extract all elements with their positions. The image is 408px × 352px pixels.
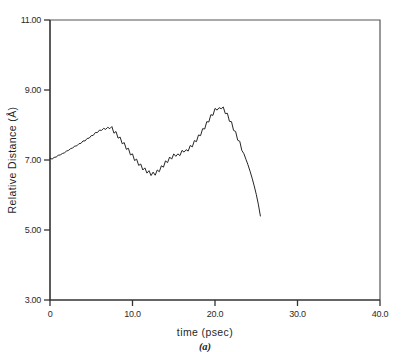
y-axis-title: Relative Distance (Å)	[6, 106, 18, 213]
x-tick-label-40: 40.0	[372, 309, 389, 319]
y-axis-ticks	[44, 20, 50, 300]
chart-canvas: 3.00 5.00 7.00 9.00 11.00 0 10.0 20.0 30…	[0, 0, 408, 352]
y-tick-label-5: 5.00	[25, 225, 42, 235]
figure-caption: (a)	[199, 341, 211, 352]
x-tick-label-10: 10.0	[124, 309, 141, 319]
plot-frame-top-right	[50, 20, 380, 300]
plot-axes	[50, 20, 380, 300]
x-axis-ticks	[50, 300, 380, 306]
x-tick-label-0: 0	[48, 309, 53, 319]
figure-container: 3.00 5.00 7.00 9.00 11.00 0 10.0 20.0 30…	[0, 0, 408, 352]
x-tick-label-30: 30.0	[289, 309, 306, 319]
y-tick-label-7: 7.00	[25, 155, 42, 165]
y-tick-label-9: 9.00	[25, 85, 42, 95]
data-curve-line	[50, 107, 260, 216]
y-tick-label-11: 11.00	[21, 15, 42, 25]
x-axis-title: time (psec)	[177, 326, 233, 338]
y-tick-label-3: 3.00	[25, 295, 42, 305]
x-tick-label-20: 20.0	[207, 309, 224, 319]
